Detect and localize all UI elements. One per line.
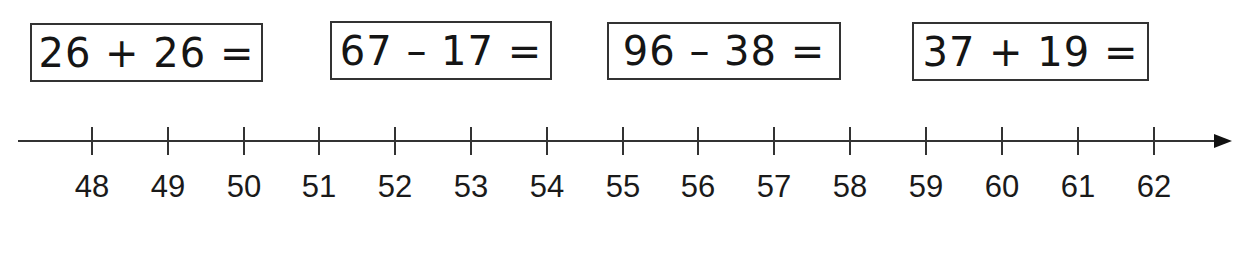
equation-box-2: 67 – 17 = (330, 21, 552, 80)
tick-label: 48 (62, 169, 122, 205)
tick-label: 52 (365, 169, 425, 205)
tick-label: 59 (896, 169, 956, 205)
tick-label: 57 (744, 169, 804, 205)
tick-label: 53 (441, 169, 501, 205)
tick-label: 58 (820, 169, 880, 205)
tick-mark (697, 127, 699, 155)
equation-box-1: 26 + 26 = (30, 23, 263, 82)
tick-mark (243, 127, 245, 155)
tick-label: 60 (972, 169, 1032, 205)
tick-label: 54 (517, 169, 577, 205)
tick-label: 56 (668, 169, 728, 205)
tick-label: 61 (1048, 169, 1108, 205)
tick-label: 50 (214, 169, 274, 205)
tick-mark (622, 127, 624, 155)
tick-mark (1077, 127, 1079, 155)
tick-mark (318, 127, 320, 155)
tick-label: 51 (289, 169, 349, 205)
tick-mark (167, 127, 169, 155)
tick-mark (394, 127, 396, 155)
tick-mark (1001, 127, 1003, 155)
tick-mark (546, 127, 548, 155)
tick-mark (470, 127, 472, 155)
tick-mark (91, 127, 93, 155)
equation-box-3: 96 – 38 = (607, 22, 841, 80)
tick-mark (1153, 127, 1155, 155)
number-line-axis (18, 140, 1218, 142)
tick-label: 49 (138, 169, 198, 205)
tick-label: 62 (1124, 169, 1184, 205)
tick-mark (773, 127, 775, 155)
tick-label: 55 (593, 169, 653, 205)
arrow-right-icon (1214, 134, 1232, 148)
tick-mark (925, 127, 927, 155)
equation-box-4: 37 + 19 = (912, 22, 1149, 81)
tick-mark (849, 127, 851, 155)
